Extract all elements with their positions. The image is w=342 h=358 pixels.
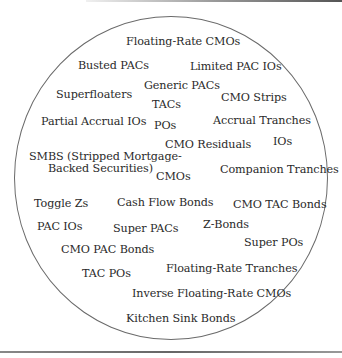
term-smbs-line2: Backed Securities)	[48, 163, 153, 175]
term-busted-pacs: Busted PACs	[78, 60, 149, 72]
term-cmo-pac-bonds: CMO PAC Bonds	[61, 244, 154, 256]
term-generic-pacs: Generic PACs	[144, 80, 220, 92]
term-cmo-strips: CMO Strips	[221, 92, 287, 104]
term-inverse-floating-rate-cmos: Inverse Floating-Rate CMOs	[132, 288, 291, 300]
term-partial-accrual-ios: Partial Accrual IOs	[41, 116, 146, 128]
term-super-pos: Super POs	[244, 237, 303, 249]
term-limited-pac-ios: Limited PAC IOs	[190, 61, 282, 73]
term-cmo-tac-bonds: CMO TAC Bonds	[233, 199, 327, 211]
diagram-canvas: Floating-Rate CMOsBusted PACsLimited PAC…	[0, 0, 342, 358]
bottom-rule	[0, 351, 342, 353]
term-floating-rate-tranches: Floating-Rate Tranches	[166, 263, 297, 275]
term-cash-flow-bonds: Cash Flow Bonds	[117, 197, 214, 209]
term-tacs: TACs	[152, 99, 181, 111]
term-tac-pos: TAC POs	[82, 268, 131, 280]
term-companion-tranches: Companion Tranches	[220, 164, 339, 176]
term-superfloaters: Superfloaters	[56, 89, 132, 101]
term-kitchen-sink-bonds: Kitchen Sink Bonds	[126, 313, 235, 325]
term-toggle-zs: Toggle Zs	[34, 198, 88, 210]
term-super-pacs: Super PACs	[113, 223, 178, 235]
term-floating-rate-cmos: Floating-Rate CMOs	[126, 36, 240, 48]
term-accrual-tranches: Accrual Tranches	[213, 115, 311, 127]
term-z-bonds: Z-Bonds	[203, 219, 249, 231]
term-pac-ios: PAC IOs	[37, 221, 82, 233]
top-rule	[86, 0, 342, 2]
term-cmos: CMOs	[156, 171, 191, 183]
term-ios: IOs	[273, 136, 292, 148]
term-pos: POs	[154, 120, 176, 132]
